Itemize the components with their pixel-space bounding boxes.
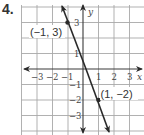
y-tick-label: −2	[69, 95, 82, 105]
x-tick-label: −3	[31, 72, 44, 82]
point-marker	[65, 20, 69, 24]
x-axis-label: x	[137, 72, 142, 82]
y-axis-label: y	[87, 7, 94, 17]
x-tick-label: 3	[127, 72, 132, 82]
x-tick-label: −2	[46, 72, 59, 82]
x-tick-label: 1	[96, 72, 101, 82]
y-tick-label: −3	[69, 111, 82, 121]
point-label: (1, −2)	[101, 88, 133, 100]
y-tick-label: 3	[74, 18, 79, 28]
graphed-line	[62, 6, 86, 69]
x-tick-label: 2	[112, 72, 117, 82]
point-label: (−1, 3)	[30, 26, 62, 38]
coordinate-graph: −3 −2 −1 1 2 3 x 3 1 −1 −2 −3 y (−1, 3) …	[0, 0, 144, 135]
y-tick-label: −1	[69, 80, 82, 90]
